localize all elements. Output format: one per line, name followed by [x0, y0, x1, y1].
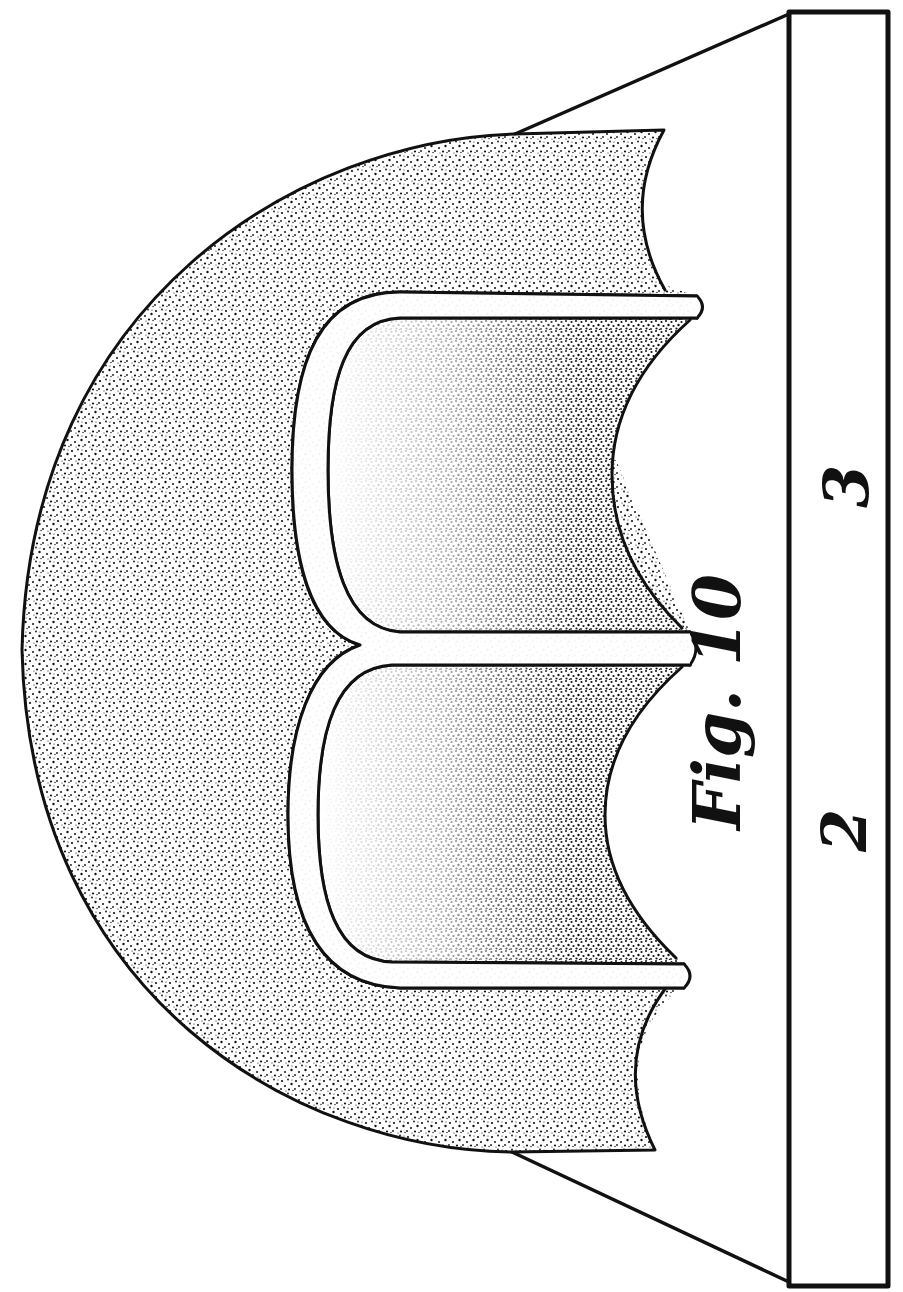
part-label-2: 2 — [808, 809, 881, 853]
patent-figure: Fig. 10 3 2 — [0, 0, 903, 1292]
part-label-3: 3 — [810, 465, 883, 508]
figure-caption: Fig. 10 — [678, 574, 756, 832]
labels: Fig. 10 3 2 — [678, 465, 883, 853]
base-plate — [789, 12, 888, 1286]
inner-ribs — [288, 292, 703, 988]
